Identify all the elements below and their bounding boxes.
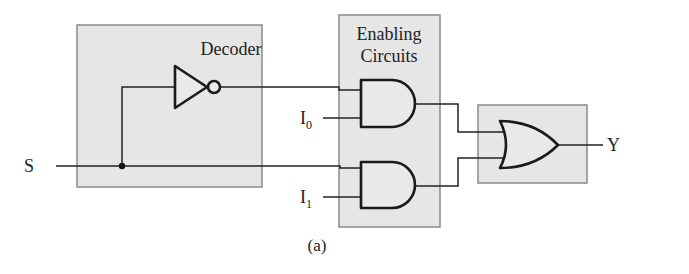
multiplexer-diagram: Decoder Enabling Circuits S I0 I1 Y (a) — [0, 0, 689, 274]
figure-caption: (a) — [308, 236, 327, 255]
input1-label: I1 — [300, 187, 312, 211]
select-label: S — [24, 156, 34, 176]
input0-label: I0 — [300, 108, 312, 132]
enabling-title-line2: Circuits — [361, 46, 418, 66]
and-gate-0-icon — [361, 80, 415, 127]
and-gate-1-icon — [361, 162, 415, 208]
output-label: Y — [607, 135, 620, 155]
decoder-title: Decoder — [201, 39, 262, 59]
enabling-title-line1: Enabling — [357, 24, 422, 44]
